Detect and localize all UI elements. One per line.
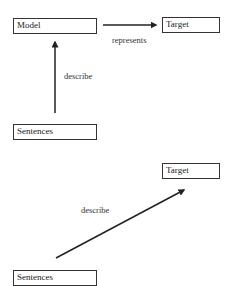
sentences-node-top-label: Sentences <box>17 126 53 136</box>
target-node-top: Target <box>162 17 220 33</box>
describe-label-top: describe <box>64 71 92 81</box>
target-node-top-label: Target <box>166 19 189 29</box>
sentences-node-top: Sentences <box>13 124 97 140</box>
describe-label-bottom: describe <box>81 205 109 215</box>
sentences-node-bottom-label: Sentences <box>17 272 53 282</box>
model-node-label: Model <box>17 20 41 30</box>
arrow-sentences-to-target <box>56 190 184 258</box>
represents-label: represents <box>112 35 146 45</box>
target-node-bottom-label: Target <box>166 165 189 175</box>
sentences-node-bottom: Sentences <box>13 270 97 286</box>
model-node: Model <box>13 18 97 34</box>
target-node-bottom: Target <box>162 163 220 179</box>
